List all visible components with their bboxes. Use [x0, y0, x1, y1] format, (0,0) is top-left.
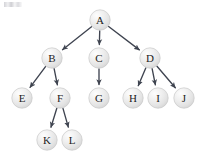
tree-edge-d-i [152, 69, 155, 85]
nodes-layer: ABCDEFGHIJKL [12, 10, 194, 150]
node-label-h: H [129, 92, 137, 104]
node-label-d: D [146, 52, 154, 64]
edges-layer [30, 27, 175, 128]
tree-node-j[interactable]: J [174, 88, 194, 108]
tree-edge-a-d [109, 27, 140, 50]
tree-node-l[interactable]: L [62, 130, 82, 150]
node-label-j: J [182, 92, 187, 104]
tree-node-h[interactable]: H [123, 88, 143, 108]
tree-edge-f-l [63, 108, 68, 127]
tree-node-a[interactable]: A [90, 10, 110, 30]
node-label-e: E [19, 92, 26, 104]
tree-edge-b-f [54, 69, 57, 85]
tree-diagram-svg: ABCDEFGHIJKL [0, 0, 207, 164]
tree-node-i[interactable]: I [148, 88, 168, 108]
tree-edge-d-h [138, 68, 146, 86]
node-label-k: K [43, 134, 51, 146]
node-label-a: A [96, 14, 104, 26]
tree-node-k[interactable]: K [37, 130, 57, 150]
node-label-c: C [95, 52, 102, 64]
tree-edge-f-k [51, 108, 57, 127]
node-label-i: I [156, 92, 160, 104]
tree-edge-d-j [157, 66, 175, 88]
node-label-b: B [48, 52, 55, 64]
node-label-g: G [95, 92, 103, 104]
tree-node-f[interactable]: F [50, 88, 70, 108]
tree-node-d[interactable]: D [140, 48, 160, 68]
tree-edge-b-e [30, 67, 45, 88]
tree-edge-a-b [63, 27, 92, 50]
node-label-l: L [69, 134, 76, 146]
tree-node-g[interactable]: G [89, 88, 109, 108]
tree-node-c[interactable]: C [89, 48, 109, 68]
tree-diagram-canvas: ABCDEFGHIJKL [0, 0, 207, 164]
tree-node-b[interactable]: B [42, 48, 62, 68]
tree-node-e[interactable]: E [12, 88, 32, 108]
node-label-f: F [57, 92, 63, 104]
